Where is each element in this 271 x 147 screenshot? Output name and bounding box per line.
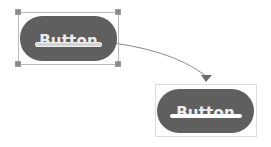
- target-button-frame: Button: [155, 84, 257, 137]
- resize-handle-bottom-right[interactable]: [115, 61, 121, 67]
- target-button-underline: [170, 114, 242, 118]
- selection-edge-top: [18, 12, 118, 13]
- source-button-underline: [35, 42, 102, 47]
- resize-handle-bottom-left[interactable]: [15, 61, 21, 67]
- source-button[interactable]: Button: [20, 16, 117, 61]
- selection-edge-left: [18, 12, 19, 64]
- arrowhead-icon: [201, 75, 212, 82]
- resize-handle-top-left[interactable]: [15, 9, 21, 15]
- selection-edge-right: [118, 12, 119, 64]
- resize-handle-top-right[interactable]: [115, 9, 121, 15]
- source-button-group[interactable]: Button: [15, 9, 122, 68]
- target-button[interactable]: Button: [157, 89, 254, 133]
- selection-edge-bottom: [18, 64, 118, 65]
